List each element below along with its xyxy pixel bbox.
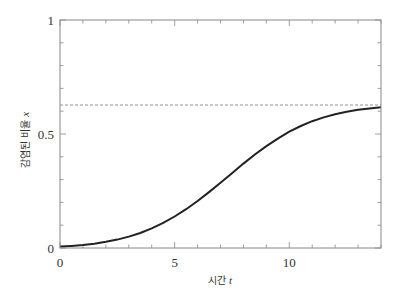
- infection-curve: [60, 107, 381, 246]
- x-tick-label: 5: [171, 255, 178, 270]
- chart: 051000.51 시간 t 감염된 비율 x: [0, 0, 398, 303]
- x-tick-label: 10: [283, 255, 296, 270]
- x-tick-label: 0: [57, 255, 64, 270]
- plot-frame: [60, 20, 381, 248]
- x-axis-label: 시간 t: [208, 274, 233, 286]
- tick-labels: 051000.51: [38, 13, 296, 270]
- y-tick-label: 0.5: [38, 127, 54, 142]
- y-axis-label: 감염된 비율 x: [19, 112, 31, 168]
- y-tick-label: 0: [48, 241, 55, 256]
- axis-ticks: [60, 20, 381, 248]
- y-tick-label: 1: [48, 13, 55, 28]
